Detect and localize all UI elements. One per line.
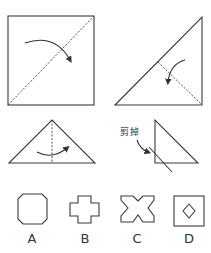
step-1-square — [8, 16, 94, 105]
option-c-label: C — [127, 231, 147, 246]
cut-line — [149, 147, 172, 172]
fold-arrow-icon — [168, 60, 185, 82]
option-b-label: B — [75, 231, 95, 246]
fold-arrow-icon — [25, 40, 70, 60]
step-4-triangle — [137, 120, 198, 172]
cut-annotation: 剪掉 — [120, 125, 140, 138]
diagram-canvas — [0, 0, 211, 253]
option-b-shape — [70, 196, 99, 223]
step-3-triangle — [9, 120, 95, 163]
option-d-shape — [174, 196, 204, 226]
option-d-label: D — [179, 231, 199, 246]
option-a-label: A — [22, 231, 42, 246]
option-a-shape — [18, 194, 47, 224]
step-2-triangle — [115, 17, 202, 105]
option-c-shape — [121, 196, 154, 222]
cut-arrow-icon — [137, 140, 148, 152]
